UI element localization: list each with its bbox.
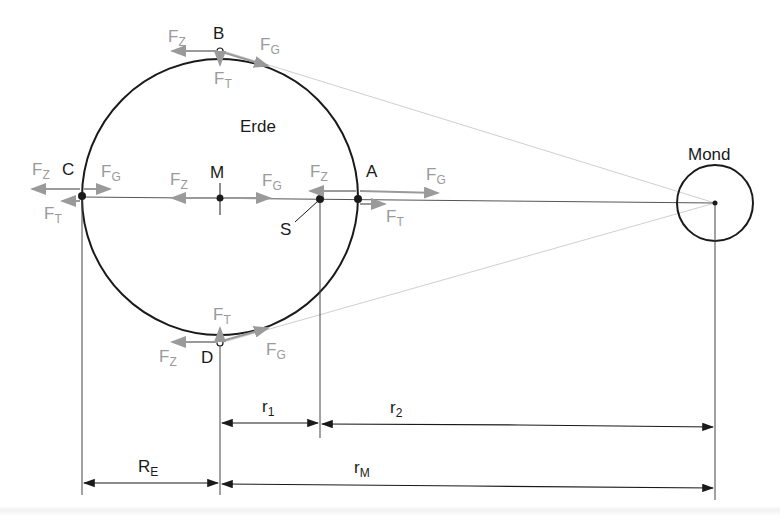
tangent-line-bottom [220, 203, 715, 343]
point-s-label: S [280, 220, 291, 239]
label-fz-c: FZ [32, 160, 50, 182]
label-fz-d: FZ [159, 347, 177, 369]
label-rm: rM [354, 458, 370, 480]
point-c-dot [78, 192, 86, 200]
svg-text:FZ: FZ [32, 160, 50, 182]
dim-arrow-r2-left [322, 424, 520, 425]
point-b-label: B [213, 24, 224, 43]
moon-label: Mond [688, 145, 731, 164]
tangent-line-top [220, 50, 715, 203]
label-fg-c: FG [101, 162, 121, 184]
s-leader-line [295, 201, 318, 222]
label-fg-m: FG [262, 171, 282, 193]
dim-arrow-r2-right [520, 425, 713, 427]
svg-text:RE: RE [138, 457, 158, 479]
svg-text:FZ: FZ [168, 27, 186, 49]
label-fz-m: FZ [170, 170, 188, 192]
earth-moon-tide-diagram: Erde Mond B C M A S D FZ FG FT FZ FG FT … [0, 0, 780, 524]
dim-arrow-rm-left [222, 484, 470, 486]
label-fg-d: FG [266, 340, 286, 362]
svg-text:FT: FT [44, 204, 62, 226]
earth-label: Erde [240, 117, 276, 136]
svg-text:FZ: FZ [159, 347, 177, 369]
svg-text:rM: rM [354, 458, 370, 480]
dim-arrow-rm-right [470, 486, 713, 488]
svg-text:FG: FG [101, 162, 121, 184]
label-re: RE [138, 457, 158, 479]
svg-text:FG: FG [262, 171, 282, 193]
label-fg-b: FG [260, 35, 280, 57]
label-ft-d: FT [213, 305, 231, 327]
point-a-dot [354, 195, 362, 203]
label-fg-a: FG [426, 165, 446, 187]
svg-text:FT: FT [386, 207, 404, 229]
label-r1: r1 [262, 397, 275, 419]
label-ft-b: FT [214, 69, 232, 91]
svg-text:FG: FG [266, 340, 286, 362]
svg-text:r1: r1 [262, 397, 275, 419]
svg-text:FG: FG [426, 165, 446, 187]
label-ft-c: FT [44, 204, 62, 226]
label-ft-a: FT [386, 207, 404, 229]
point-a-label: A [366, 162, 378, 181]
cropped-caption-band [0, 506, 780, 516]
svg-text:FG: FG [260, 35, 280, 57]
point-m-dot [217, 195, 224, 202]
svg-text:r2: r2 [390, 398, 403, 420]
point-c-label: C [62, 160, 74, 179]
point-d-label: D [201, 348, 213, 367]
svg-text:FZ: FZ [170, 170, 188, 192]
label-fz-a: FZ [310, 162, 328, 184]
force-arrow-fg-a [360, 191, 438, 193]
point-m-label: M [210, 163, 224, 182]
svg-text:FT: FT [213, 305, 231, 327]
svg-text:FT: FT [214, 69, 232, 91]
label-r2: r2 [390, 398, 403, 420]
moon-center-dot [713, 201, 718, 206]
label-fz-b: FZ [168, 27, 186, 49]
svg-text:FZ: FZ [310, 162, 328, 184]
